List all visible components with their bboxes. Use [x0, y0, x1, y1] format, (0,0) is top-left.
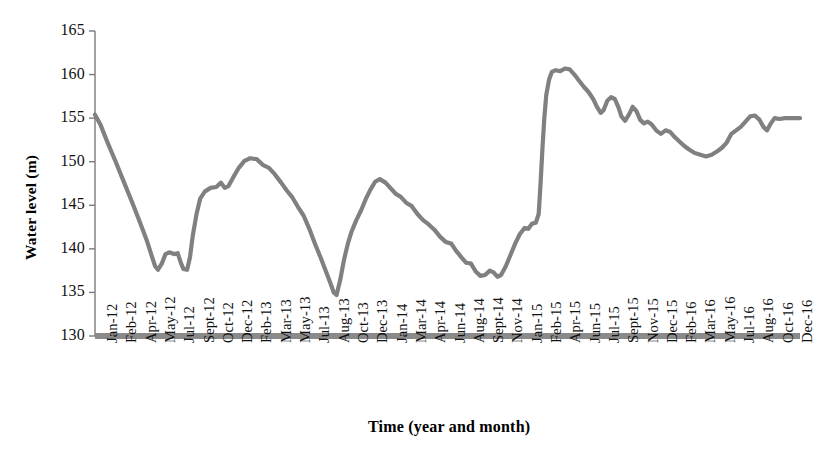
x-tick-label-jan-12: Jan-12: [104, 304, 121, 343]
x-tick-label-sept-12: Sept-12: [201, 297, 218, 343]
y-tick-label-150: 150: [41, 152, 85, 170]
x-tick-label-oct-16: Oct-16: [780, 302, 797, 343]
y-tick-label-160: 160: [41, 65, 85, 83]
x-tick-label-dec-13: Dec-13: [374, 300, 391, 343]
x-tick-label-apr-15: Apr-15: [567, 301, 584, 343]
x-tick-label-jul-15: Jul-15: [606, 306, 623, 343]
x-tick-label-feb-12: Feb-12: [123, 301, 140, 343]
water-level-chart-figure: 130135140145150155160165 Jan-12Feb-12Apr…: [0, 0, 821, 451]
x-tick-label-sept-14: Sept-14: [490, 297, 507, 343]
y-tick-label-155: 155: [41, 108, 85, 126]
chart-plot-area: [0, 0, 821, 451]
x-tick-label-may-12: May-12: [162, 296, 179, 343]
x-tick-label-mar-14: Mar-14: [413, 299, 430, 343]
x-tick-label-dec-12: Dec-12: [239, 300, 256, 343]
x-tick-label-mar-16: Mar-16: [702, 299, 719, 343]
x-tick-label-feb-15: Feb-15: [548, 301, 565, 343]
x-tick-label-feb-13: Feb-13: [258, 301, 275, 343]
water-level-data-line: [95, 68, 800, 295]
x-tick-label-dec-15: Dec-15: [664, 300, 681, 343]
x-tick-label-mar-13: Mar-13: [278, 299, 295, 343]
x-tick-label-apr-14: Apr-14: [432, 301, 449, 343]
x-tick-label-dec-16: Dec-16: [799, 300, 816, 343]
x-tick-label-nov-15: Nov-15: [645, 298, 662, 343]
x-tick-label-jul-12: Jul-12: [181, 306, 198, 343]
x-tick-label-jan-14: Jan-14: [394, 304, 411, 343]
y-tick-label-145: 145: [41, 195, 85, 213]
x-tick-label-may-13: May-13: [297, 296, 314, 343]
x-tick-label-jun-14: Jun-14: [452, 303, 469, 343]
y-axis-title: Water level (m): [22, 155, 40, 260]
x-tick-label-oct-12: Oct-12: [220, 302, 237, 343]
x-tick-label-aug-16: Aug-16: [760, 298, 777, 343]
x-tick-label-jul-13: Jul-13: [316, 306, 333, 343]
y-tick-label-140: 140: [41, 239, 85, 257]
y-tick-label-135: 135: [41, 282, 85, 300]
y-tick-label-130: 130: [41, 326, 85, 344]
x-tick-label-aug-14: Aug-14: [471, 298, 488, 343]
x-tick-label-jul-16: Jul-16: [741, 306, 758, 343]
x-tick-label-may-16: May-16: [722, 296, 739, 343]
x-tick-label-jun-15: Jun-15: [587, 303, 604, 343]
y-tick-label-165: 165: [41, 21, 85, 39]
x-axis-title: Time (year and month): [368, 418, 530, 436]
y-tick-marks: [89, 31, 95, 336]
x-tick-label-sept-15: Sept-15: [625, 297, 642, 343]
x-tick-label-oct-13: Oct-13: [355, 302, 372, 343]
x-tick-label-apr-12: Apr-12: [143, 301, 160, 343]
x-tick-label-aug-13: Aug-13: [336, 298, 353, 343]
x-tick-label-nov-14: Nov-14: [509, 298, 526, 343]
axes-group: [89, 31, 800, 336]
x-tick-label-jan-15: Jan-15: [529, 304, 546, 343]
x-tick-label-feb-16: Feb-16: [683, 301, 700, 343]
